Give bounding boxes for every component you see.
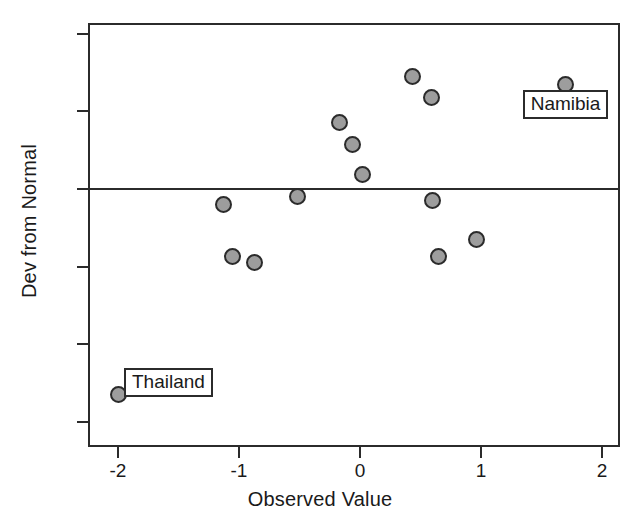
data-point[interactable] [289,188,306,205]
y-axis-tick [77,33,88,35]
point-label-namibia: Namibia [523,90,609,119]
scatter-chart: 0.40.20.0-0.2-0.4-0.6 -2-1012 ThailandNa… [0,0,640,520]
y-axis-tick [77,266,88,268]
data-point[interactable] [423,89,440,106]
x-axis-tick [117,447,119,458]
x-axis-tick [601,447,603,458]
data-point[interactable] [468,231,485,248]
x-axis-tick-label: 2 [562,461,640,480]
x-axis-tick-label: -1 [199,461,279,480]
x-axis-tick [359,447,361,458]
zero-reference-line [88,188,620,190]
y-axis-title: Dev from Normal [19,101,39,341]
x-axis-tick [480,447,482,458]
x-axis-tick-label: -2 [78,461,158,480]
data-point[interactable] [404,68,421,85]
x-axis-tick-label: 0 [320,461,400,480]
x-axis-tick-label: 1 [441,461,521,480]
point-label-thailand: Thailand [124,368,213,397]
x-axis-tick [238,447,240,458]
data-point[interactable] [344,136,361,153]
x-axis-title: Observed Value [0,489,640,509]
y-axis-tick [77,343,88,345]
data-point[interactable] [215,196,232,213]
y-axis-tick [77,421,88,423]
y-axis-tick [77,110,88,112]
data-point[interactable] [354,166,371,183]
y-axis-tick [77,188,88,190]
